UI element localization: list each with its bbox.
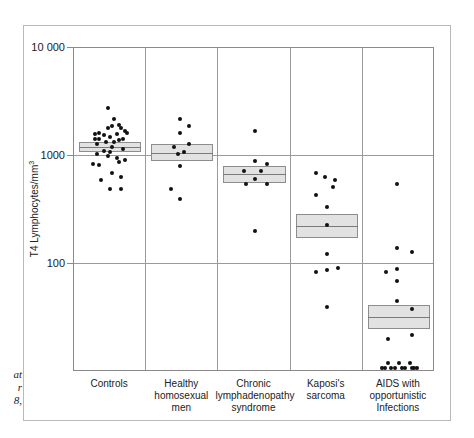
data-point <box>102 149 106 153</box>
data-point <box>410 250 414 254</box>
x-category-label-line: Chronic <box>216 378 292 390</box>
data-point <box>325 223 329 227</box>
data-point <box>393 366 397 370</box>
data-point <box>265 182 269 186</box>
data-point <box>119 175 123 179</box>
data-point <box>314 171 318 175</box>
data-point <box>383 366 387 370</box>
data-point <box>242 169 246 173</box>
x-category-label-line: opportunistic <box>360 390 436 402</box>
data-point <box>123 158 127 162</box>
x-category-label-line: homosexual <box>143 390 219 402</box>
x-category-label-line: syndrome <box>216 402 292 414</box>
data-point <box>410 333 414 337</box>
data-point <box>117 138 121 142</box>
data-point <box>259 169 263 173</box>
data-point <box>169 187 173 191</box>
data-point <box>384 270 388 274</box>
data-point <box>121 147 125 151</box>
x-category-label-line: Controls <box>71 378 147 390</box>
data-point <box>400 366 404 370</box>
x-category-label-line: AIDS with <box>360 378 436 390</box>
data-point <box>91 162 95 166</box>
column-divider <box>290 48 291 370</box>
x-category-label-line: Healthy <box>143 378 219 390</box>
data-point <box>93 137 97 141</box>
gridline-horizontal <box>74 263 433 264</box>
data-point <box>108 150 112 154</box>
x-category-label: Chroniclymphadenopathysyndrome <box>216 378 292 414</box>
data-point <box>408 361 412 365</box>
x-category-label-line: lymphadenopathy <box>216 390 292 402</box>
caption-line-3: 8, <box>0 394 22 407</box>
y-axis-label-superscript: 3 <box>28 161 35 165</box>
y-tick-label: 100 <box>15 257 65 269</box>
data-point <box>265 162 269 166</box>
column-divider <box>145 48 146 370</box>
data-point <box>97 137 101 141</box>
data-point <box>102 133 106 137</box>
data-point <box>93 132 97 136</box>
x-category-label: Healthyhomosexualmen <box>143 378 219 414</box>
gridline-horizontal <box>74 155 433 156</box>
data-point <box>389 366 393 370</box>
data-point <box>121 137 125 141</box>
x-category-label-line: Infections <box>360 402 436 414</box>
x-category-label-line: sarcoma <box>288 390 364 402</box>
data-point <box>415 366 419 370</box>
column-divider <box>362 48 363 370</box>
data-point <box>178 164 182 168</box>
data-point <box>187 142 191 146</box>
caption-line-1: at <box>0 368 22 381</box>
data-point <box>410 366 414 370</box>
data-point <box>104 140 108 144</box>
data-point <box>178 131 182 135</box>
data-point <box>119 187 123 191</box>
data-point <box>110 171 114 175</box>
data-point <box>106 106 110 110</box>
data-point <box>97 131 101 135</box>
caption-line-2: r <box>0 381 22 394</box>
data-point <box>253 159 257 163</box>
data-point <box>336 266 340 270</box>
x-category-label: AIDS withopportunisticInfections <box>360 378 436 414</box>
cutoff-caption: at r 8, <box>0 368 22 407</box>
data-point <box>410 307 414 311</box>
data-point <box>253 177 257 181</box>
data-point <box>386 361 390 365</box>
data-point <box>119 126 123 130</box>
column-divider <box>217 48 218 370</box>
y-axis-label-text: T4 Lymphocytes/mm <box>29 165 40 257</box>
data-point <box>325 252 329 256</box>
data-point <box>95 142 99 146</box>
data-point <box>314 193 318 197</box>
data-point <box>108 135 112 139</box>
data-point <box>397 361 401 365</box>
data-point <box>325 268 329 272</box>
data-point <box>115 132 119 136</box>
data-point <box>176 152 180 156</box>
y-tick-label: 10 000 <box>15 41 65 53</box>
data-point <box>395 267 399 271</box>
data-point <box>331 185 335 189</box>
data-point <box>314 270 318 274</box>
data-point <box>187 124 191 128</box>
x-category-label: Kaposi'ssarcoma <box>288 378 364 402</box>
x-category-label: Controls <box>71 378 147 390</box>
data-point <box>395 246 399 250</box>
data-point <box>125 131 129 135</box>
data-point <box>117 160 121 164</box>
data-point <box>172 145 176 149</box>
median-line <box>368 317 430 318</box>
y-axis-label: T4 Lymphocytes/mm3 <box>28 161 40 257</box>
data-point <box>112 117 116 121</box>
data-point <box>323 175 327 179</box>
data-point <box>386 337 390 341</box>
data-point <box>325 205 329 209</box>
median-line <box>223 174 285 175</box>
data-point <box>106 154 110 158</box>
data-point <box>395 299 399 303</box>
data-point <box>244 182 248 186</box>
data-point <box>97 163 101 167</box>
data-point <box>106 126 110 130</box>
